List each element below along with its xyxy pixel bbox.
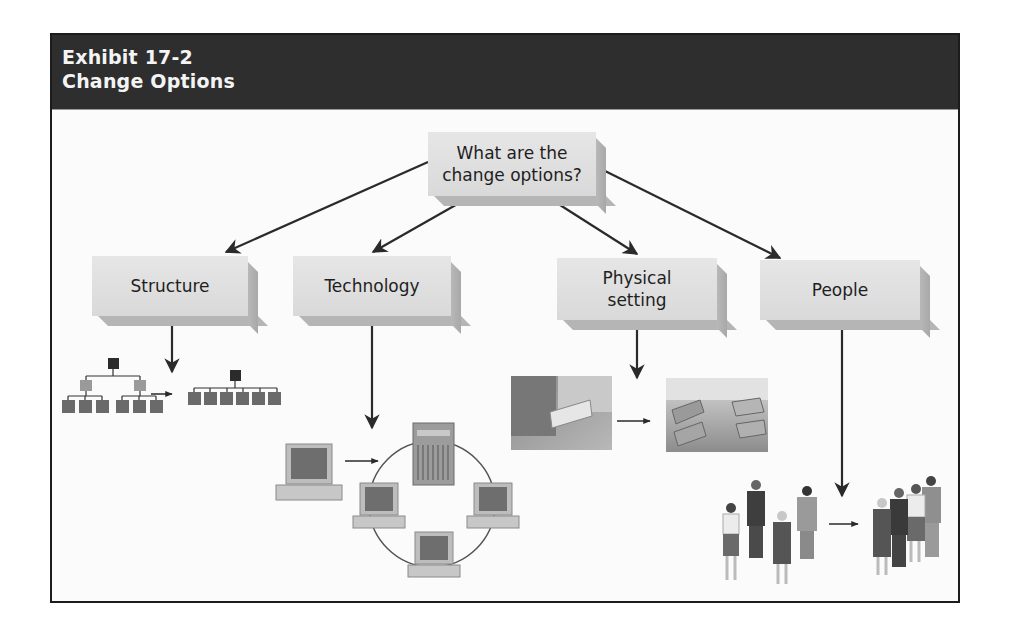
root-question-box: What are the change options? [428, 132, 596, 196]
office-before-image [511, 376, 612, 450]
option-label-structure: Structure [130, 275, 209, 297]
network-computer-right-icon [467, 483, 519, 528]
person-icon [797, 486, 817, 559]
root-question-line1: What are the [442, 142, 582, 164]
option-label-technology: Technology [324, 275, 419, 297]
person-icon [873, 498, 891, 575]
root-question-line2: change options? [442, 164, 582, 186]
option-box-structure: Structure [92, 256, 248, 316]
team-group-icon [873, 476, 941, 575]
arrow-to-physical-setting [549, 198, 637, 254]
option-box-physical-setting: Physical setting [557, 258, 717, 320]
option-label-people: People [812, 279, 868, 301]
person-icon [747, 480, 765, 558]
network-computer-left-icon [353, 483, 405, 528]
individuals-group-icon [723, 480, 817, 584]
person-icon [773, 511, 791, 584]
person-icon [890, 488, 908, 567]
org-chart-flat-icon [188, 370, 281, 405]
arrow-to-technology [373, 198, 468, 252]
option-box-people: People [760, 260, 920, 320]
person-icon [907, 484, 925, 562]
option-label-physical-line2: setting [602, 289, 671, 311]
arrow-to-people [597, 167, 780, 258]
org-chart-tall-icon [62, 358, 163, 413]
network-computer-bottom-icon [408, 532, 460, 577]
person-icon [723, 503, 739, 580]
office-after-image [666, 378, 768, 452]
server-icon [413, 423, 454, 485]
option-box-technology: Technology [293, 256, 451, 316]
option-label-physical-line1: Physical [602, 267, 671, 289]
standalone-computer-icon [276, 444, 342, 500]
